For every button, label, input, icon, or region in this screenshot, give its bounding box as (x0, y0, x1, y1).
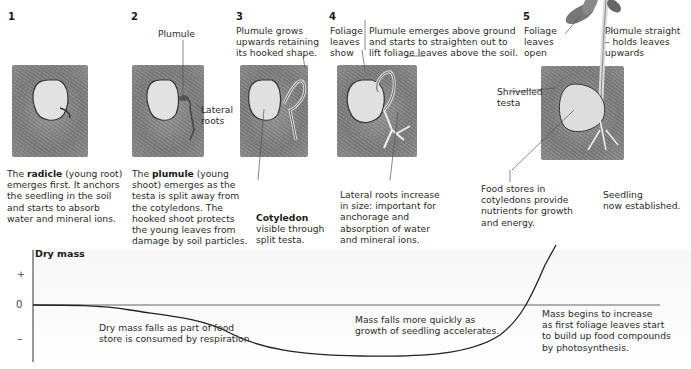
chart-annotation-3: Mass begins to increase as first foliage… (542, 308, 671, 353)
label-plumule: Plumule (158, 28, 195, 39)
label-foliage-leaves-open: Foliage leaves open (524, 25, 557, 59)
stage-5-food-caption: Food stores in cotyledons provide nutrie… (481, 183, 573, 228)
term-cotyledon: Cotyledon (256, 212, 308, 223)
chart-ylabel: Dry mass (35, 248, 85, 259)
stage-2-caption: The plumule (young shoot) emerges as the… (132, 168, 247, 246)
y-tick-minus: – (17, 333, 22, 344)
label-lateral-roots: Lateral roots (201, 104, 233, 126)
stage-4-caption: Lateral roots increase in size: importan… (340, 189, 440, 245)
label-foliage-leaves-show: Foliage leaves show (330, 25, 363, 59)
label-shrivelled-testa: Shrivelled testa (497, 86, 543, 108)
y-tick-zero: 0 (16, 299, 22, 310)
seed-icon (147, 80, 194, 140)
label-plumule-straight: Plumule straight – holds leaves upwards (605, 25, 680, 59)
term-plumule: plumule (152, 168, 194, 179)
seed-icon (33, 80, 70, 120)
stage-1-caption: The radicle (young root) emerges first. … (7, 168, 122, 224)
stage-3-caption: Cotyledon visible through split testa. (256, 212, 324, 246)
seedling-icon (559, 0, 623, 150)
stage-3-heading: Plumule grows upwards retaining its hook… (236, 25, 319, 59)
seed-icon (347, 72, 410, 148)
chart-annotation-2: Mass falls more quickly as growth of see… (355, 314, 499, 336)
seed-icon (249, 80, 305, 140)
chart-annotation-1: Dry mass falls as part of food store is … (99, 322, 252, 344)
term-radicle: radicle (27, 168, 62, 179)
stage-4-heading: Plumule emerges above ground and starts … (369, 25, 518, 59)
y-tick-plus: + (17, 268, 25, 279)
stage-5-seedling-caption: Seedling now established. (603, 189, 681, 211)
